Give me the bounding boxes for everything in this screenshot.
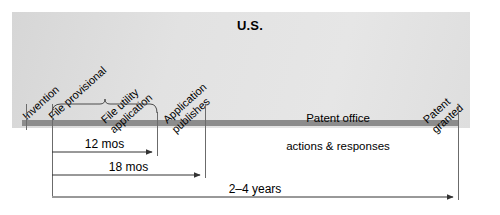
brace-provisional-to-utility xyxy=(52,99,157,113)
span-label-12mos: 12 mos xyxy=(52,137,157,151)
span-label-2to4years: 2–4 years xyxy=(52,182,458,196)
patent-timeline-diagram: U.S. Patent office actions & responses I… xyxy=(0,0,500,215)
span-label-18mos: 18 mos xyxy=(52,160,205,174)
